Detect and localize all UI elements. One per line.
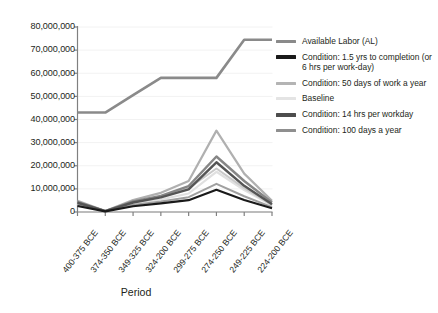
legend-swatch-icon xyxy=(276,97,296,100)
legend-item-label: Condition: 100 days a year xyxy=(302,125,402,135)
legend-swatch-icon xyxy=(276,55,296,59)
legend-item[interactable]: Condition: 1.5 yrs to completion (or 6 h… xyxy=(276,52,436,72)
legend-item[interactable]: Condition: 50 days of work a year xyxy=(276,78,436,88)
chart-legend: Available Labor (AL)Condition: 1.5 yrs t… xyxy=(276,36,436,140)
legend-item-label: Condition: 50 days of work a year xyxy=(302,78,426,88)
legend-item[interactable]: Baseline xyxy=(276,93,436,103)
legend-swatch-icon xyxy=(276,113,296,117)
legend-swatch-icon xyxy=(276,129,296,132)
line-chart: 010,000,00020,000,00030,000,00040,000,00… xyxy=(0,0,438,313)
legend-item[interactable]: Condition: 14 hrs per workday xyxy=(276,109,436,119)
legend-item-label: Condition: 1.5 yrs to completion (or 6 h… xyxy=(302,52,434,72)
legend-item-label: Condition: 14 hrs per workday xyxy=(302,109,413,119)
legend-swatch-icon xyxy=(276,40,296,43)
legend-item[interactable]: Condition: 100 days a year xyxy=(276,125,436,135)
legend-item-label: Baseline xyxy=(302,93,334,103)
x-axis-title: Period xyxy=(0,286,272,298)
legend-item-label: Available Labor (AL) xyxy=(302,36,378,46)
legend-swatch-icon xyxy=(276,82,296,85)
legend-item[interactable]: Available Labor (AL) xyxy=(276,36,436,46)
